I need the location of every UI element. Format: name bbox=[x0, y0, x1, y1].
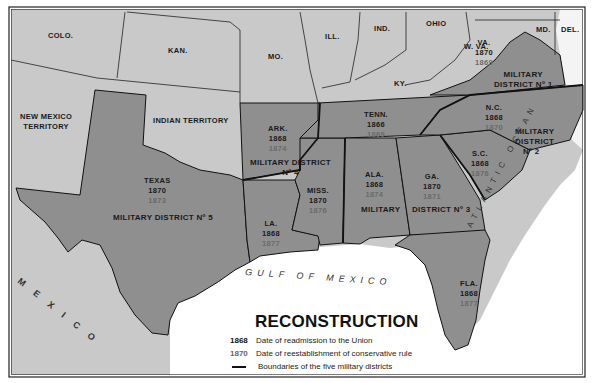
state-name: GA. bbox=[423, 172, 441, 182]
label-new-mexico: NEW MEXICO TERRITORY bbox=[20, 112, 72, 132]
state-label-sc: S.C. 1868 1876 bbox=[471, 149, 489, 179]
state-label-ark: ARK. 1868 1874 bbox=[268, 124, 288, 154]
legend-text: Boundaries of the five military district… bbox=[258, 362, 392, 371]
legend-key: 1870 bbox=[230, 349, 256, 358]
district-line: DISTRICT Nº 1 bbox=[494, 80, 552, 90]
conservative-rule-year: 1873 bbox=[144, 196, 171, 206]
legend-item-conservative-rule: 1870 Date of reestablishment of conserva… bbox=[230, 349, 418, 358]
conservative-rule-year: 1876 bbox=[307, 206, 329, 216]
state-label-nc: N.C. 1868 1870 bbox=[485, 103, 503, 133]
legend-text: Date of reestablishment of conservative … bbox=[256, 349, 412, 358]
state-label-texas: TEXAS 1870 1873 bbox=[144, 176, 171, 206]
district-line: Nº 2 bbox=[515, 147, 554, 157]
label-maryland: MD. bbox=[536, 25, 551, 35]
label-illinois: ILL. bbox=[325, 32, 340, 42]
state-label-fla: FLA. 1868 1877 bbox=[460, 279, 478, 309]
label-missouri: MO. bbox=[268, 52, 283, 62]
state-name: LA. bbox=[262, 219, 280, 229]
state-label-tenn: TENN. 1866 1869 bbox=[364, 110, 388, 140]
conservative-rule-year: 1876 bbox=[471, 169, 489, 179]
state-label-miss: MISS. 1870 1876 bbox=[307, 186, 329, 216]
district-label-4: MILITARY DISTRICT Nº 4 bbox=[250, 158, 331, 178]
district-label-3-a: MILITARY bbox=[361, 205, 400, 215]
state-name: N.C. bbox=[485, 103, 503, 113]
readmission-year: 1870 bbox=[144, 186, 171, 196]
conservative-rule-year: 1871 bbox=[423, 192, 441, 202]
label-indian-territory: INDIAN TERRITORY bbox=[153, 116, 229, 126]
label-new-mexico-line1: NEW MEXICO bbox=[20, 112, 72, 122]
state-name: S.C. bbox=[471, 149, 489, 159]
state-label-va: VA. 1870 1869 bbox=[475, 38, 493, 68]
label-indiana: IND. bbox=[374, 24, 390, 34]
state-name: TEXAS bbox=[144, 176, 171, 186]
state-label-ala: ALA. 1868 1874 bbox=[365, 170, 384, 200]
state-name: FLA. bbox=[460, 279, 478, 289]
legend-text: Date of readmission to the Union bbox=[256, 336, 373, 345]
state-name: TENN. bbox=[364, 110, 388, 120]
label-delaware: DEL. bbox=[561, 25, 579, 35]
state-name: VA. bbox=[475, 38, 493, 48]
readmission-year: 1868 bbox=[268, 134, 288, 144]
readmission-year: 1868 bbox=[365, 180, 384, 190]
readmission-year: 1866 bbox=[364, 120, 388, 130]
label-ohio: OHIO bbox=[426, 19, 446, 29]
label-kansas: KAN. bbox=[168, 46, 188, 56]
legend-key: 1868 bbox=[230, 336, 256, 345]
conservative-rule-year: 1870 bbox=[485, 123, 503, 133]
state-label-ga: GA. 1870 1871 bbox=[423, 172, 441, 202]
conservative-rule-year: 1874 bbox=[365, 190, 384, 200]
conservative-rule-year: 1874 bbox=[268, 144, 288, 154]
label-colorado: COLO. bbox=[48, 31, 73, 41]
district-label-1: MILITARY DISTRICT Nº 1 bbox=[494, 70, 552, 90]
district-line: MILITARY bbox=[494, 70, 552, 80]
conservative-rule-year: 1877 bbox=[262, 239, 280, 249]
state-label-la: LA. 1868 1877 bbox=[262, 219, 280, 249]
readmission-year: 1870 bbox=[475, 48, 493, 58]
map-title: RECONSTRUCTION bbox=[255, 312, 418, 332]
map-legend: RECONSTRUCTION 1868 Date of readmission … bbox=[230, 312, 418, 371]
boundary-line-icon bbox=[232, 366, 246, 368]
readmission-year: 1868 bbox=[485, 113, 503, 123]
district-label-5: MILITARY DISTRICT Nº 5 bbox=[113, 213, 213, 223]
conservative-rule-year: 1877 bbox=[460, 299, 478, 309]
district-label-3-b: DISTRICT Nº 3 bbox=[412, 205, 470, 215]
legend-item-readmission: 1868 Date of readmission to the Union bbox=[230, 336, 418, 345]
state-name: MISS. bbox=[307, 186, 329, 196]
legend-item-boundaries: Boundaries of the five military district… bbox=[230, 362, 418, 371]
label-kentucky: KY. bbox=[394, 79, 407, 89]
conservative-rule-year: 1869 bbox=[364, 130, 388, 140]
state-name: ARK. bbox=[268, 124, 288, 134]
readmission-year: 1870 bbox=[307, 196, 329, 206]
conservative-rule-year: 1869 bbox=[475, 58, 493, 68]
district-line: MILITARY DISTRICT bbox=[250, 158, 331, 168]
readmission-year: 1868 bbox=[460, 289, 478, 299]
readmission-year: 1868 bbox=[262, 229, 280, 239]
district-line: Nº 4 bbox=[250, 168, 331, 178]
readmission-year: 1870 bbox=[423, 182, 441, 192]
state-name: ALA. bbox=[365, 170, 384, 180]
label-new-mexico-line2: TERRITORY bbox=[20, 122, 72, 132]
readmission-year: 1868 bbox=[471, 159, 489, 169]
